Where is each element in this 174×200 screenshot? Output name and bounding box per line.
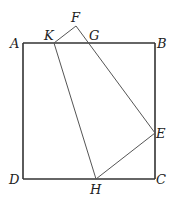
label-g: G bbox=[89, 28, 99, 43]
segment-kh bbox=[54, 43, 96, 179]
label-b: B bbox=[156, 36, 167, 51]
label-k: K bbox=[43, 28, 55, 43]
segment-he bbox=[96, 133, 155, 179]
label-a: A bbox=[9, 36, 19, 51]
square-abcd bbox=[23, 43, 155, 179]
label-h: H bbox=[89, 182, 102, 197]
geometry-diagram: A B C D E F G H K bbox=[0, 0, 174, 200]
segment-fe bbox=[76, 26, 155, 133]
label-e: E bbox=[155, 126, 166, 141]
label-c: C bbox=[156, 172, 166, 187]
label-d: D bbox=[8, 172, 20, 187]
segment-kf bbox=[54, 26, 76, 43]
label-f: F bbox=[70, 10, 81, 25]
point-labels: A B C D E F G H K bbox=[8, 10, 167, 197]
fold-lines bbox=[54, 26, 155, 179]
